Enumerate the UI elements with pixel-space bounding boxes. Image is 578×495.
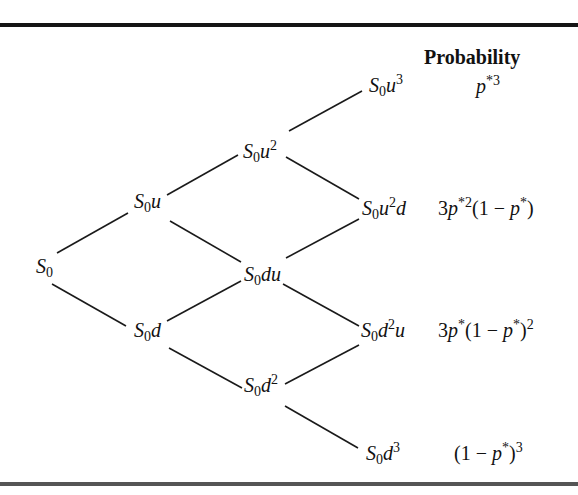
node-s0du: S0du <box>244 264 281 284</box>
prob-udd: 3p*(1 − p*)2 <box>438 320 534 340</box>
node-s0u2d: S0u2d <box>362 198 406 218</box>
node-s0u2: S0u2 <box>243 141 277 161</box>
edge-s0u2-s0u3 <box>289 91 362 131</box>
edge-s0u2-s0u2d <box>286 157 359 199</box>
node-s0u3: S0u3 <box>369 75 403 95</box>
edge-s0u-s0u2 <box>167 155 238 195</box>
node-s0: S0 <box>36 256 53 276</box>
edge-s0u-s0du <box>170 221 241 262</box>
node-s0d3: S0d3 <box>366 443 400 463</box>
prob-uuu: p*3 <box>476 76 500 96</box>
edge-s0du-s0u2d <box>286 219 359 258</box>
prob-uud: 3p*2(1 − p*) <box>438 198 534 218</box>
edge-s0d-s0du <box>167 281 241 321</box>
node-s0d2: S0d2 <box>244 375 278 395</box>
edge-s0d2-s0d2u <box>285 345 359 384</box>
bottom-rule <box>0 482 578 486</box>
edge-s0-s0d <box>52 284 126 326</box>
prob-ddd: (1 − p*)3 <box>454 443 523 463</box>
node-s0u: S0u <box>134 191 161 211</box>
node-s0d2u: S0d2u <box>361 320 405 340</box>
node-s0d: S0d <box>134 320 161 340</box>
edge-s0d2-s0d3 <box>285 406 358 448</box>
edge-s0d-s0d2 <box>169 348 242 388</box>
edge-s0-s0u <box>57 213 128 253</box>
edge-s0du-s0d2u <box>283 284 359 326</box>
